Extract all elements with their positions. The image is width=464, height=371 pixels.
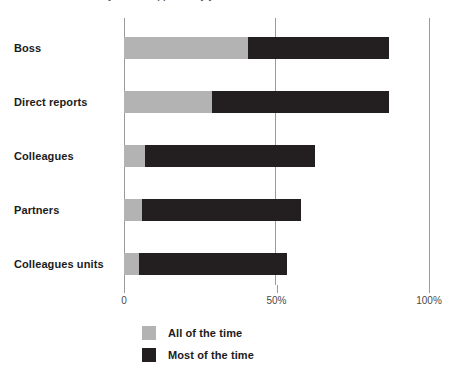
bar-row[interactable]: [124, 199, 430, 221]
value-axis: 050%100%: [124, 285, 430, 311]
bar-segment[interactable]: [124, 91, 212, 113]
bar-row[interactable]: [124, 253, 430, 275]
plot-area: [124, 18, 430, 285]
bar-segment[interactable]: [145, 145, 314, 167]
axis-tick-label: 0: [121, 295, 127, 306]
legend: All of the time Most of the time: [142, 322, 382, 366]
legend-label: Most of the time: [168, 349, 254, 361]
category-label: Partners: [14, 204, 124, 216]
legend-label: All of the time: [168, 327, 242, 339]
legend-item-all-of-the-time[interactable]: All of the time: [142, 322, 382, 344]
chart-title-cropped: to what extent do you feel supported by …: [0, 0, 464, 5]
axis-tick: [429, 285, 430, 293]
axis-tick-label: 100%: [416, 295, 442, 306]
category-label: Colleagues: [14, 150, 124, 162]
bar-segment[interactable]: [142, 199, 301, 221]
legend-item-most-of-the-time[interactable]: Most of the time: [142, 344, 382, 366]
bar-segment[interactable]: [124, 37, 248, 59]
category-label: Boss: [14, 42, 124, 54]
bar-row[interactable]: [124, 37, 430, 59]
category-label: Colleagues units: [14, 258, 124, 270]
axis-tick: [277, 285, 278, 293]
axis-tick: [124, 285, 125, 293]
category-axis: BossDirect reportsColleaguesPartnersColl…: [14, 18, 124, 285]
bar-segment[interactable]: [124, 253, 139, 275]
chart-title-text: to what extent do you feel supported by …: [0, 0, 464, 1]
bar-segment[interactable]: [212, 91, 389, 113]
bar-segment[interactable]: [139, 253, 287, 275]
bar-row[interactable]: [124, 145, 430, 167]
legend-swatch-icon: [142, 326, 156, 340]
legend-swatch-icon: [142, 348, 156, 362]
axis-tick-label: 50%: [266, 295, 286, 306]
bar-row[interactable]: [124, 91, 430, 113]
bar-segment[interactable]: [248, 37, 390, 59]
chart-page: to what extent do you feel supported by …: [0, 0, 464, 371]
category-label: Direct reports: [14, 96, 124, 108]
bar-segment[interactable]: [124, 145, 145, 167]
bar-segment[interactable]: [124, 199, 142, 221]
